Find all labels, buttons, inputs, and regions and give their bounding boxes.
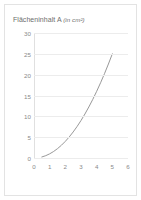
chart-title-main: Flächeninhalt A xyxy=(13,16,61,23)
y-gridline xyxy=(34,96,128,97)
y-tick-label: 30 xyxy=(24,30,31,37)
y-tick-label: 15 xyxy=(24,92,31,99)
x-tick-label: 2 xyxy=(64,163,67,170)
y-gridline xyxy=(34,137,128,138)
y-tick-label: 0 xyxy=(28,155,31,162)
y-gridline xyxy=(34,33,128,34)
y-gridline xyxy=(34,75,128,76)
x-tick-label: 5 xyxy=(111,163,114,170)
x-tick-label: 1 xyxy=(48,163,51,170)
y-gridline xyxy=(34,54,128,55)
x-tick-label: 4 xyxy=(95,163,98,170)
y-gridline xyxy=(34,116,128,117)
y-gridline xyxy=(34,158,128,159)
y-tick-label: 25 xyxy=(24,50,31,57)
x-tick-label: 0 xyxy=(32,163,35,170)
curve-path xyxy=(42,54,113,157)
chart-figure: Flächeninhalt A (in cm²) 051015202530 01… xyxy=(0,0,141,200)
x-tick-label: 3 xyxy=(79,163,82,170)
y-tick-label: 5 xyxy=(28,134,31,141)
chart-title-unit: (in cm²) xyxy=(63,16,84,23)
plot-area: 051015202530 xyxy=(34,33,128,158)
y-tick-label: 20 xyxy=(24,71,31,78)
chart-title: Flächeninhalt A (in cm²) xyxy=(13,15,85,24)
x-tick-label: 6 xyxy=(126,163,129,170)
y-tick-label: 10 xyxy=(24,113,31,120)
